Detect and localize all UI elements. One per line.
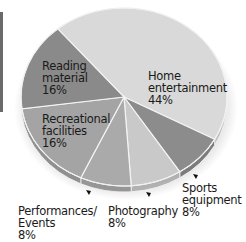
label-reading-material: Readingmaterial16% xyxy=(42,60,88,96)
label-home-entertainment: Homeentertainment44% xyxy=(148,70,227,106)
label-sports-equipment: Sportsequipment8% xyxy=(182,182,242,218)
label-photography: Photography8% xyxy=(108,205,178,229)
label-performances-events: Performances/Events8% xyxy=(18,205,97,241)
label-recreational-facilities: Recreationalfacilities16% xyxy=(42,113,110,149)
